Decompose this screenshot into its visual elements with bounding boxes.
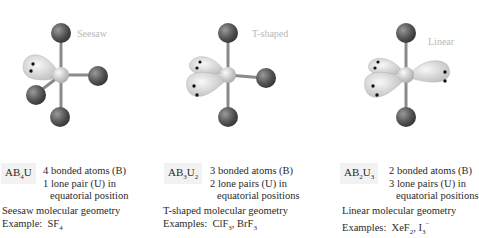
formula-u: U — [363, 166, 371, 178]
formula-u-sub: 3 — [371, 173, 375, 181]
description: 2 bonded atoms (B) 3 lone pairs (U) in e… — [389, 165, 479, 203]
desc-line: 3 lone pairs (U) in — [389, 178, 479, 191]
formula-badge: AB3U2 — [164, 163, 202, 184]
seesaw-molecule-model — [0, 0, 160, 130]
formula-base: AB — [5, 166, 20, 178]
description: 4 bonded atoms (B) 1 lone pair (U) in eq… — [43, 165, 128, 203]
desc-line: equatorial positions — [389, 190, 479, 203]
formula-u-sub: 2 — [195, 173, 199, 181]
examples-label: Examples: — [163, 218, 207, 229]
geometry-label: T-shaped — [252, 28, 288, 39]
caption: Seesaw molecular geometry Example: SF4 — [2, 205, 120, 234]
examples-label: Example: — [2, 218, 42, 229]
example-sub: 3 — [228, 224, 232, 232]
examples-line: Example: SF4 — [2, 218, 120, 235]
desc-line: 2 lone pairs (U) in — [210, 178, 300, 191]
examples-label: Examples: — [342, 221, 386, 232]
description: 3 bonded atoms (B) 2 lone pairs (U) in e… — [210, 165, 300, 203]
example-sub: 2 — [410, 227, 414, 235]
geometry-caption: Linear molecular geometry — [342, 205, 456, 218]
formula-badge: AB2U3 — [340, 163, 378, 184]
examples-line: Examples: ClF3, BrF3 — [163, 218, 288, 235]
formula-u: U — [187, 166, 195, 178]
formula-base: AB — [168, 166, 183, 178]
geometry-caption: Seesaw molecular geometry — [2, 205, 120, 218]
example-formula: SF — [48, 218, 60, 229]
formula-u: U — [24, 166, 32, 178]
panel-seesaw: Seesaw AB4U 4 bonded atoms (B) 1 lone pa… — [0, 0, 160, 237]
desc-line: equatorial position — [43, 190, 128, 203]
geometry-label: Seesaw — [77, 28, 107, 39]
caption: Linear molecular geometry Examples: XeF2… — [342, 205, 456, 238]
linear-molecule-model — [318, 0, 478, 130]
example-formula: ClF — [213, 218, 229, 229]
panel-linear: Linear AB2U3 2 bonded atoms (B) 3 lone p… — [318, 0, 478, 237]
example-sub: 3 — [422, 227, 426, 235]
example-sup: − — [425, 220, 429, 228]
example-sub: 3 — [253, 224, 257, 232]
desc-line: 1 lone pair (U) in — [43, 178, 128, 191]
formula-base: AB — [344, 166, 359, 178]
geometry-label: Linear — [428, 36, 454, 47]
desc-line: equatorial positions — [210, 190, 300, 203]
formula-badge: AB4U — [1, 163, 36, 184]
desc-line: 2 bonded atoms (B) — [389, 165, 479, 178]
caption: T-shaped molecular geometry Examples: Cl… — [163, 205, 288, 234]
panel-t-shaped: T-shaped AB3U2 3 bonded atoms (B) 2 lone… — [160, 0, 320, 237]
examples-line: Examples: XeF2, I3− — [342, 218, 456, 238]
desc-line: 4 bonded atoms (B) — [43, 165, 128, 178]
example-formula: BrF — [237, 218, 253, 229]
example-sub: 4 — [59, 224, 63, 232]
geometry-caption: T-shaped molecular geometry — [163, 205, 288, 218]
example-formula: XeF — [392, 221, 410, 232]
t-shaped-molecule-model — [160, 0, 320, 130]
desc-line: 3 bonded atoms (B) — [210, 165, 300, 178]
